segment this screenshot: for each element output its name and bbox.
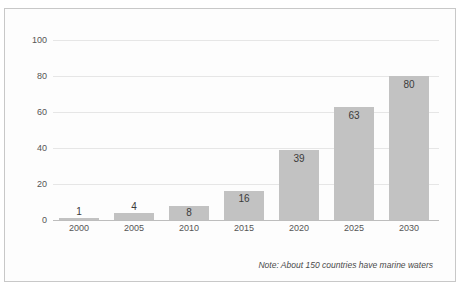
bar-slot-2015: 16 bbox=[224, 40, 264, 220]
x-axis-tick-label: 2015 bbox=[224, 223, 264, 233]
bar-value-label: 39 bbox=[279, 153, 319, 164]
plot-area: 100 80 60 40 20 0 1 4 bbox=[53, 40, 439, 220]
bar-slot-2010: 8 bbox=[169, 40, 209, 220]
bar-slot-2030: 80 bbox=[389, 40, 429, 220]
x-axis-tick-label: 2005 bbox=[114, 223, 154, 233]
bar-slot-2025: 63 bbox=[334, 40, 374, 220]
bar-slot-2020: 39 bbox=[279, 40, 319, 220]
bar-value-label: 1 bbox=[59, 206, 99, 217]
table-row[interactable]: 8 bbox=[169, 206, 209, 220]
bar-series: 1 4 8 16 39 bbox=[53, 40, 439, 220]
y-axis-tick-label: 20 bbox=[37, 179, 47, 189]
bar-value-label: 80 bbox=[389, 79, 429, 90]
table-row[interactable]: 80 bbox=[389, 76, 429, 220]
y-axis-tick-label: 60 bbox=[37, 107, 47, 117]
bar-value-label: 16 bbox=[224, 193, 264, 204]
x-axis-tick-label: 2000 bbox=[59, 223, 99, 233]
bar-slot-2000: 1 bbox=[59, 40, 99, 220]
bar-value-label: 4 bbox=[114, 201, 154, 212]
table-row[interactable]: 4 bbox=[114, 213, 154, 220]
chart-frame: 100 80 60 40 20 0 1 4 bbox=[4, 8, 456, 282]
y-axis-tick-label: 0 bbox=[42, 215, 47, 225]
x-axis-tick-label: 2010 bbox=[169, 223, 209, 233]
x-axis-tick-label: 2025 bbox=[334, 223, 374, 233]
bar-value-label: 63 bbox=[334, 110, 374, 121]
x-axis: 2000 2005 2010 2015 2020 2025 2030 bbox=[53, 220, 439, 238]
y-axis-tick-label: 80 bbox=[37, 71, 47, 81]
bar-value-label: 8 bbox=[169, 207, 209, 218]
table-row[interactable]: 39 bbox=[279, 150, 319, 220]
table-row[interactable]: 63 bbox=[334, 107, 374, 220]
x-axis-tick-label: 2030 bbox=[389, 223, 429, 233]
table-row[interactable]: 16 bbox=[224, 191, 264, 220]
chart-note: Note: About 150 countries have marine wa… bbox=[258, 260, 433, 270]
bar-slot-2005: 4 bbox=[114, 40, 154, 220]
y-axis-tick-label: 40 bbox=[37, 143, 47, 153]
x-axis-tick-label: 2020 bbox=[279, 223, 319, 233]
y-axis-tick-label: 100 bbox=[32, 35, 47, 45]
